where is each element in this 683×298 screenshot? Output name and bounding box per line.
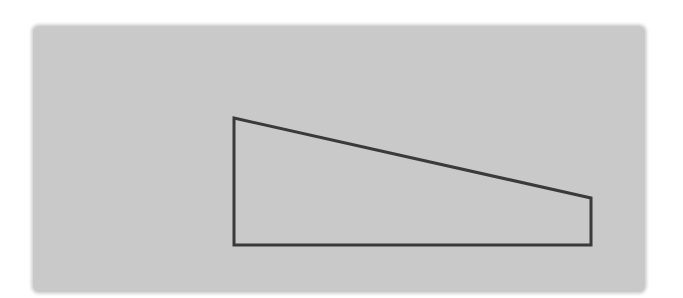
trapezoid-shape [234, 118, 591, 245]
trapezoid-diagram [0, 0, 683, 298]
